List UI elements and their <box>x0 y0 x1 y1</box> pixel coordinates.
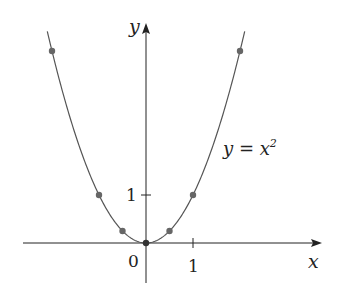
data-point <box>96 192 102 198</box>
data-point <box>166 228 172 234</box>
y-axis-label: y <box>128 15 140 37</box>
data-point <box>143 240 149 246</box>
function-label-exponent: 2 <box>269 137 277 150</box>
parabola-graph: y x 0 1 1 y = x2 <box>0 0 338 299</box>
x-axis-label: x <box>308 250 319 272</box>
data-point <box>49 48 55 54</box>
function-label: y = x2 <box>222 137 277 159</box>
y-tick-label-1: 1 <box>126 185 137 205</box>
data-point <box>119 228 125 234</box>
function-label-text: y = x <box>222 138 270 159</box>
data-point <box>237 48 243 54</box>
origin-label: 0 <box>128 251 139 271</box>
x-tick-label-1: 1 <box>188 256 199 276</box>
data-point <box>190 192 196 198</box>
